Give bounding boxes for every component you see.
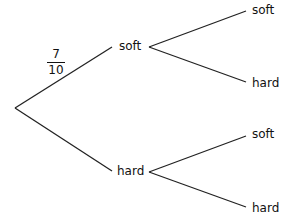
- branch-soft-hard: [149, 47, 246, 82]
- branch-soft-soft: [149, 11, 246, 47]
- branch-hard-soft: [149, 136, 246, 172]
- node-soft-soft: soft: [252, 3, 274, 17]
- node-soft-hard: hard: [252, 76, 279, 90]
- numerator: 7: [52, 47, 60, 61]
- node-hard: hard: [117, 164, 144, 178]
- node-soft: soft: [119, 39, 141, 53]
- node-hard-hard: hard: [252, 201, 279, 215]
- branch-hard-hard: [149, 172, 246, 207]
- branch-root-hard: [15, 108, 112, 171]
- denominator: 10: [48, 63, 63, 77]
- tree-lines: [0, 0, 287, 218]
- node-hard-soft: soft: [252, 127, 274, 141]
- probability-soft: 7 10: [45, 48, 67, 77]
